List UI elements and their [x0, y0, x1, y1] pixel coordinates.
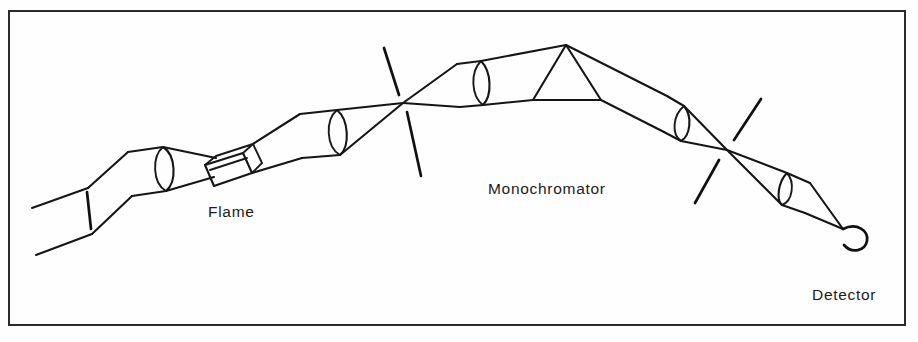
source-aperture: [87, 192, 91, 229]
beam-prism-to-focus-lens: [566, 45, 667, 132]
lens-2: [300, 103, 403, 158]
focusing-lens: [664, 96, 727, 150]
detector-tip: [843, 227, 867, 251]
label-flame: Flame: [208, 204, 255, 220]
figure-border: [9, 11, 905, 325]
flame-cell: [205, 144, 262, 186]
beam-slit-to-collimator: [403, 64, 460, 107]
source-beam: [32, 188, 92, 255]
entrance-slit: [384, 48, 421, 176]
lens-1: [88, 147, 216, 234]
label-detector: Detector: [812, 287, 876, 303]
figure-canvas: Flame Monochromator Detector: [0, 0, 918, 342]
prism: [533, 45, 601, 100]
optical-diagram-svg: [0, 0, 918, 342]
detector-lens: [727, 150, 843, 229]
beam-flame-to-lens2: [252, 114, 302, 173]
label-monochromator: Monochromator: [488, 181, 606, 197]
collimating-lens: [457, 45, 566, 107]
